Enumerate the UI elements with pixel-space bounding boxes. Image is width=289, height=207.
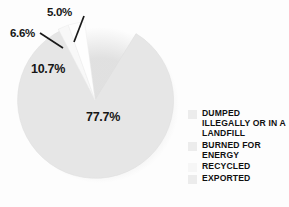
pie-chart-plot-area: 77.7% 10.7% 6.6% 5.0% (0, 0, 185, 207)
legend-item-label: EXPORTED (202, 173, 250, 183)
legend-item-recycled[interactable]: RECYCLED (188, 161, 289, 172)
legend-swatch-icon (188, 175, 197, 184)
pie-chart-figure: 77.7% 10.7% 6.6% 5.0% DUMPED ILLEGALLY O… (0, 0, 289, 207)
legend-item-label: DUMPED ILLEGALLY OR IN A LANDFILL (202, 108, 289, 139)
pie-label-burned-for-energy: 10.7% (31, 62, 65, 76)
legend-item-dumped-illegally-or-in-a-landfill[interactable]: DUMPED ILLEGALLY OR IN A LANDFILL (188, 108, 289, 139)
legend-item-burned-for-energy[interactable]: BURNED FOR ENERGY (188, 140, 289, 160)
legend-swatch-icon (188, 142, 197, 151)
legend-swatch-icon (188, 163, 197, 172)
chart-legend: DUMPED ILLEGALLY OR IN A LANDFILL BURNED… (188, 108, 289, 185)
pie-label-dumped-illegally-or-in-a-landfill: 77.7% (86, 110, 120, 124)
pie-label-recycled: 6.6% (10, 27, 35, 39)
legend-item-label: RECYCLED (202, 161, 250, 171)
legend-item-exported[interactable]: EXPORTED (188, 173, 289, 184)
pie-label-exported: 5.0% (47, 6, 72, 18)
legend-swatch-icon (188, 110, 197, 119)
legend-item-label: BURNED FOR ENERGY (202, 140, 289, 160)
